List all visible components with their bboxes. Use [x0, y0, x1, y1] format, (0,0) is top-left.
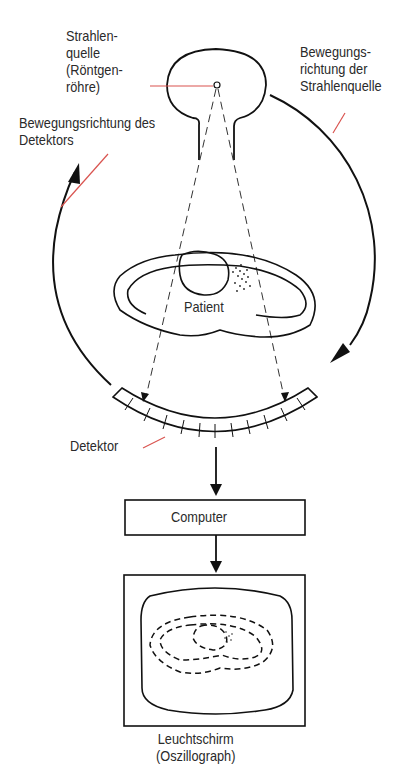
source-direction-leader — [333, 113, 345, 133]
tumor-dots — [232, 264, 251, 292]
source-rotation-arc — [270, 95, 375, 345]
detector-label: Detektor — [70, 438, 118, 455]
detector-direction-label: Bewegungsrichtung des Detektors — [19, 115, 155, 149]
patient-label: Patient — [184, 299, 224, 316]
fan-beam-left — [146, 89, 216, 397]
fan-beam-right — [218, 89, 284, 397]
patient-heart — [179, 251, 228, 295]
screen-label: Leuchtschirm (Oszillograph) — [156, 731, 235, 765]
source-label: Strahlen- quelle (Röntgen- röhre) — [66, 28, 123, 96]
arrowhead-screen — [210, 561, 222, 573]
detector-leader — [143, 437, 165, 448]
focal-spot — [214, 82, 220, 88]
arrowhead-computer — [210, 484, 222, 496]
source-rotation-arrowhead — [330, 343, 350, 363]
computer-label: Computer — [171, 509, 227, 526]
detector-rotation-arrowhead — [68, 163, 80, 184]
detector-rotation-arc — [53, 172, 111, 385]
source-direction-label: Bewegungs- richtung der Strahlenquelle — [300, 44, 382, 95]
detector-direction-leader — [61, 154, 108, 207]
xray-tube — [167, 49, 266, 160]
